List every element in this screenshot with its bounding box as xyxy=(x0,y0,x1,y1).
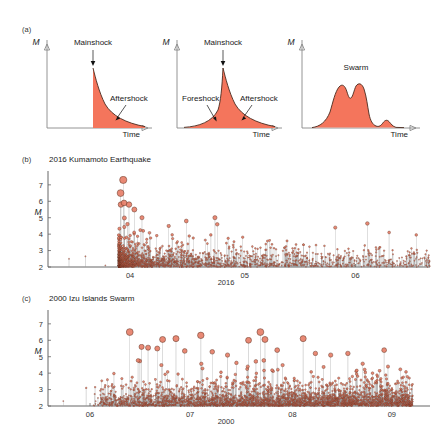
event-marker xyxy=(246,402,247,403)
event-marker xyxy=(217,402,218,403)
event-marker xyxy=(263,254,264,255)
event-marker xyxy=(231,266,232,267)
event-marker xyxy=(282,401,283,402)
event-marker xyxy=(150,398,151,399)
event-marker xyxy=(132,400,133,401)
event-marker xyxy=(156,397,157,398)
event-marker xyxy=(131,258,132,259)
event-marker xyxy=(416,256,417,257)
event-marker xyxy=(317,397,318,398)
event-marker xyxy=(184,398,185,399)
event-marker xyxy=(257,248,259,250)
event-marker xyxy=(224,391,226,393)
event-marker xyxy=(357,255,358,256)
event-marker xyxy=(420,264,421,265)
event-marker xyxy=(276,384,278,386)
event-marker xyxy=(189,394,190,395)
event-marker xyxy=(137,396,138,397)
event-marker xyxy=(205,253,206,254)
event-marker xyxy=(155,248,157,250)
event-marker xyxy=(314,263,315,264)
event-marker xyxy=(145,258,146,259)
event-marker xyxy=(376,263,377,264)
event-marker xyxy=(422,258,423,259)
event-marker xyxy=(300,398,301,399)
event-marker xyxy=(301,395,302,396)
event-marker xyxy=(307,401,308,402)
event-marker xyxy=(246,365,249,368)
event-marker xyxy=(301,396,302,397)
event-marker xyxy=(245,255,246,256)
y-tick-label: 2 xyxy=(39,402,43,411)
event-marker xyxy=(211,262,212,263)
event-marker xyxy=(388,387,390,389)
event-marker xyxy=(175,266,176,267)
event-marker xyxy=(244,401,245,402)
event-marker xyxy=(191,264,192,265)
event-marker xyxy=(396,402,397,403)
event-marker xyxy=(275,399,276,400)
event-marker xyxy=(120,385,122,387)
event-marker xyxy=(263,399,264,400)
event-marker xyxy=(247,266,248,267)
event-marker xyxy=(364,394,365,395)
event-marker xyxy=(162,401,163,402)
event-marker xyxy=(154,378,156,380)
event-marker xyxy=(143,254,144,255)
event-marker xyxy=(203,390,205,392)
event-marker xyxy=(412,383,414,385)
event-marker xyxy=(234,264,235,265)
event-marker xyxy=(196,387,198,389)
event-marker xyxy=(376,398,377,399)
event-marker xyxy=(215,402,216,403)
event-marker xyxy=(174,256,175,257)
event-marker xyxy=(123,395,124,396)
event-marker xyxy=(210,391,212,393)
event-marker xyxy=(230,262,231,263)
event-marker xyxy=(375,252,377,254)
event-marker xyxy=(311,262,312,263)
event-marker xyxy=(176,265,177,266)
event-marker xyxy=(206,393,207,394)
event-marker xyxy=(194,394,195,395)
event-marker xyxy=(152,261,153,262)
event-marker xyxy=(204,392,206,394)
event-marker xyxy=(376,249,378,251)
event-marker xyxy=(194,403,195,404)
event-marker xyxy=(176,395,177,396)
event-marker xyxy=(321,256,322,257)
event-marker xyxy=(126,401,127,402)
event-marker xyxy=(314,265,315,266)
panel-a-label: (a) xyxy=(22,25,32,34)
event-marker xyxy=(360,379,362,381)
event-marker xyxy=(144,384,146,386)
event-marker xyxy=(202,384,204,386)
event-marker xyxy=(286,393,287,394)
event-marker xyxy=(190,403,191,404)
event-marker xyxy=(145,260,146,261)
event-marker xyxy=(371,254,372,255)
event-marker xyxy=(337,263,338,264)
event-marker xyxy=(108,386,110,388)
event-marker xyxy=(130,388,132,390)
event-marker xyxy=(267,265,268,266)
event-marker xyxy=(329,264,330,265)
event-marker xyxy=(319,397,320,398)
event-marker xyxy=(277,263,278,264)
event-marker xyxy=(296,380,298,382)
event-marker xyxy=(156,262,157,263)
event-marker xyxy=(403,394,404,395)
event-marker xyxy=(247,265,248,266)
event-marker xyxy=(348,378,350,380)
event-marker xyxy=(350,386,352,388)
event-marker xyxy=(148,263,149,264)
event-marker xyxy=(249,400,250,401)
event-marker xyxy=(340,382,342,384)
event-marker xyxy=(236,399,237,400)
event-marker xyxy=(164,373,167,376)
event-marker xyxy=(246,381,248,383)
event-marker xyxy=(107,402,108,403)
event-marker xyxy=(133,389,135,391)
event-marker xyxy=(296,255,297,256)
event-marker xyxy=(243,261,244,262)
